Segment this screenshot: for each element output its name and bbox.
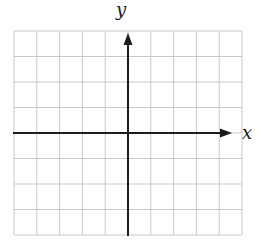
coordinate-plane: y x <box>0 0 262 241</box>
y-axis-label: y <box>115 0 127 20</box>
coordinate-plane-figure: y x <box>0 0 262 241</box>
y-axis-arrowhead <box>124 33 133 45</box>
y-axis <box>124 33 133 236</box>
x-axis <box>13 129 232 138</box>
x-axis-label: x <box>242 122 252 143</box>
x-axis-arrowhead <box>220 129 232 138</box>
